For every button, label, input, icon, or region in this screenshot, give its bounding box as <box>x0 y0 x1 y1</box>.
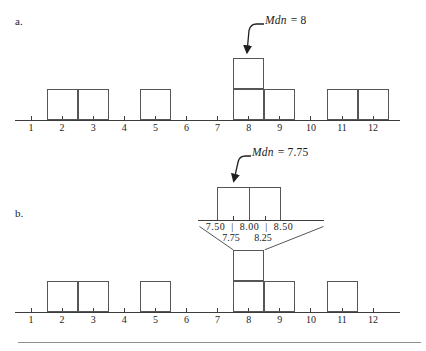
axis-tick <box>31 308 32 312</box>
median-annotation-b-value: = 7.75 <box>278 146 309 158</box>
inset-tick-8-25 <box>265 216 266 220</box>
median-annotation-a: Mdn= 8 <box>265 14 306 26</box>
panel-a-label: a. <box>15 15 23 27</box>
median-annotation-a-var: Mdn <box>265 14 287 26</box>
axis-tick-label: 11 <box>337 123 347 133</box>
axis-tick-label: 2 <box>60 123 65 133</box>
axis-line-a <box>15 120 400 121</box>
axis-tick-label: 12 <box>368 315 378 325</box>
median-arrow-b <box>234 156 251 181</box>
histogram-block <box>78 89 109 120</box>
axis-tick-label: 5 <box>153 315 158 325</box>
axis-tick-label: 6 <box>184 123 189 133</box>
inset-tick-7-75 <box>233 216 234 220</box>
histogram-block <box>140 281 171 312</box>
axis-tick-label: 10 <box>306 315 316 325</box>
axis-tick-label: 9 <box>277 315 282 325</box>
median-arrow-a <box>247 24 264 53</box>
axis-tick <box>310 308 311 312</box>
histogram-block <box>140 89 171 120</box>
histogram-block <box>327 281 358 312</box>
histogram-block <box>264 281 295 312</box>
histogram-block <box>327 89 358 120</box>
axis-tick-label: 4 <box>122 123 127 133</box>
axis-tick <box>186 308 187 312</box>
axis-tick-label: 4 <box>122 315 127 325</box>
median-figure: a. b. 123456789101112123456789101112 Mdn… <box>0 0 426 351</box>
histogram-block <box>233 58 264 89</box>
histogram-block <box>47 281 78 312</box>
panel-b-label: b. <box>15 207 23 219</box>
axis-tick-label: 2 <box>60 315 65 325</box>
median-annotation-a-value: = 8 <box>291 14 307 26</box>
axis-tick-label: 7 <box>215 315 220 325</box>
axis-tick-label: 8 <box>246 123 251 133</box>
axis-tick-label: 1 <box>29 123 34 133</box>
axis-tick-label: 5 <box>153 123 158 133</box>
histogram-block <box>233 250 264 281</box>
axis-tick <box>217 116 218 120</box>
axis-tick <box>373 308 374 312</box>
median-annotation-b-var: Mdn <box>252 146 274 158</box>
axis-tick-label: 3 <box>91 123 96 133</box>
axis-tick-label: 6 <box>184 315 189 325</box>
axis-tick-label: 10 <box>306 123 316 133</box>
axis-tick <box>310 116 311 120</box>
median-annotation-b: Mdn= 7.75 <box>252 146 308 158</box>
axis-tick <box>124 116 125 120</box>
axis-tick <box>217 308 218 312</box>
bottom-rule <box>18 342 421 343</box>
axis-tick <box>186 116 187 120</box>
axis-tick-label: 11 <box>337 315 347 325</box>
histogram-block <box>47 89 78 120</box>
inset-quarter-label-right: 8.25 <box>254 232 272 243</box>
axis-tick <box>124 308 125 312</box>
axis-tick <box>31 116 32 120</box>
histogram-block <box>358 89 389 120</box>
histogram-block <box>264 89 295 120</box>
histogram-block <box>233 281 264 312</box>
axis-tick-label: 9 <box>277 123 282 133</box>
axis-tick-label: 8 <box>246 315 251 325</box>
axis-tick-label: 1 <box>29 315 34 325</box>
axis-tick-label: 7 <box>215 123 220 133</box>
axis-line-b <box>15 312 400 313</box>
inset-scale-labels: 7.50 | 8.00 | 8.50 <box>187 221 312 232</box>
axis-tick-label: 12 <box>368 123 378 133</box>
histogram-block <box>233 89 264 120</box>
inset-quarter-label-left: 7.75 <box>222 232 240 243</box>
axis-tick-label: 3 <box>91 315 96 325</box>
histogram-block <box>78 281 109 312</box>
